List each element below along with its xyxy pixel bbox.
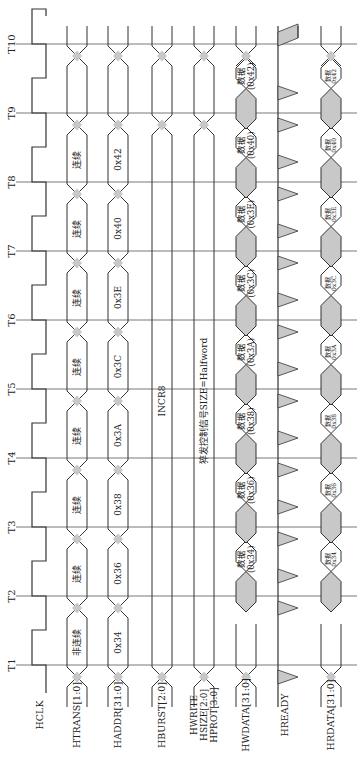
hready-pulse [278,670,298,684]
hwdata-value-line: (0x40) [245,131,255,159]
hrdata-value: 数据0x36 [323,483,337,498]
haddr-value: 0x3E [113,286,123,309]
htrans-value: 连续 [71,496,82,514]
hrdata-wait [321,296,341,337]
signal-label-haddr: HADDR[31:0] [112,682,123,748]
hrdata-value-line: 0x36 [330,483,337,498]
hwdata-wait [236,227,256,268]
hwdata-idle [236,624,256,667]
hwdata-stub-top [236,26,256,46]
hready-wait-pulse [278,362,298,376]
hwdata-wait [236,89,256,130]
hburst-segment-end [152,66,172,115]
hready-pulse [278,601,298,615]
htrans-value: 连续 [71,358,82,376]
hready-wait-pulse [278,500,298,514]
hctrl-stub-top [194,26,214,46]
hwdata-wait [236,296,256,337]
text-labels: T1T2T3T4T5T6T7T8T9T10非连续连续连续连续连续连续连续连续0x… [6,34,337,751]
htrans-segment [67,66,87,115]
hready-pulse [278,394,298,408]
time-label-t4: T4 [6,451,17,464]
haddr-value: 0x40 [113,217,123,240]
hrdata-idle [321,624,341,667]
time-label-t7: T7 [6,244,17,257]
hrdata-value: 数据0x34 [323,552,337,567]
hrdata-value-line: 0x3E [330,207,337,222]
time-label-t9: T9 [6,106,17,119]
htrans-value: 非连续 [71,629,82,656]
hrdata-value-line: 0x3A [330,344,337,360]
hrdata-value-line: 0x40 [330,138,337,153]
hrdata-wait [321,503,341,544]
hrdata-wait [321,365,341,406]
signal-label-hctrl-line: HPROT[3:0] [208,687,218,743]
hwdata-value-line: (0x38) [245,407,255,435]
hrdata-value: 数据0x3C [323,275,337,291]
signal-label-htrans: HTRANS[1:0] [71,682,82,748]
hwdata-value-line: (0x3C) [245,269,255,298]
hrdata-wait [321,89,341,130]
hrdata-value: 数据0x38 [323,414,337,429]
hready-pulse [278,463,298,477]
hready-wait-pulse [278,431,298,445]
htrans-value: 连续 [71,151,82,169]
hrdata-value: 数据0x3A [323,344,337,360]
hrdata-wait [321,434,341,475]
time-label-t1: T1 [6,658,17,671]
time-label-t8: T8 [6,175,17,188]
hready-wait-pulse [278,224,298,238]
time-label-t10: T10 [6,34,17,53]
hwdata-value-line: (0x3E) [245,200,255,228]
hburst-value: INCR8 [157,385,167,416]
haddr-value: 0x3A [113,423,123,447]
hrdata-value-line: 0x38 [330,414,337,429]
hwdata-value-line: (0x36) [245,476,255,504]
time-label-t3: T3 [6,520,17,533]
hready-pulse [278,187,298,201]
signal-label-hctrl-line: HWRITE [189,695,199,735]
htrans-value: 连续 [71,289,82,307]
signal-label-hctrl-line: HSIZE[2:0] [199,689,209,741]
hwdata-value-line: (0x3A) [245,338,255,366]
hwdata-wait [236,158,256,199]
signal-label-hready: HREADY [279,693,290,737]
hrdata-value: 数据0x40 [323,138,337,153]
haddr-value: 0x34 [113,631,123,654]
hrdata-value: 数据0x42 [323,69,337,84]
htrans-value: 连续 [71,220,82,238]
signal-label-hctrl: HWRITEHSIZE[2:0]HPROT[3:0] [189,687,219,743]
hwdata-wait [236,572,256,613]
htrans-value: 连续 [71,565,82,583]
hready-pulse [278,118,298,132]
hwdata-value-line: (0x34) [245,545,255,573]
haddr-value: 0x3C [113,355,123,379]
time-label-t5: T5 [6,382,17,395]
htrans-value: 连续 [71,427,82,445]
hwdata-value-line: (0x42) [245,62,255,90]
hrdata-value-line: 0x34 [330,552,337,567]
hrdata-value-line: 0x3C [330,275,337,291]
haddr-value: 0x38 [113,493,123,516]
hwdata-wait [236,365,256,406]
hready-pulse [278,256,298,270]
hready-wait-pulse [278,155,298,169]
hrdata-value-line: 0x42 [330,69,337,84]
haddr-segment [108,66,128,115]
hrdata-stub-top [321,26,341,46]
hwdata-wait [236,503,256,544]
signal-label-hrdata: HRDATA[31:0] [325,680,336,751]
hready-wait-pulse [278,293,298,307]
hready-pulse [278,325,298,339]
signal-label-hwdata: HWDATA[31:0] [240,678,251,751]
hwdata-wait [236,434,256,475]
hrdata-wait [321,227,341,268]
haddr-value: 0x42 [113,148,123,170]
hrdata-wait [321,572,341,613]
signal-label-hburst: HBURST[2:0] [156,682,167,748]
hready-wait-pulse [278,86,298,100]
signal-label-hclk: HCLK [34,700,45,730]
timing-diagram: T1T2T3T4T5T6T7T8T9T10非连续连续连续连续连续连续连续连续0x… [0,0,363,757]
hburst-stub-top [152,26,172,46]
haddr-stub-top [108,26,128,46]
